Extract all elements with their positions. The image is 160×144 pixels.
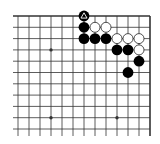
white-stone (112, 34, 122, 44)
star-point (49, 116, 52, 119)
black-stone (79, 11, 90, 22)
black-stone (101, 33, 112, 44)
black-stone (123, 45, 134, 56)
black-stone (90, 33, 101, 44)
white-stone (123, 34, 133, 44)
black-stone-disc (90, 33, 101, 44)
star-point (115, 116, 118, 119)
black-stone-disc (123, 45, 134, 56)
white-stone (90, 22, 100, 32)
black-stone (79, 22, 90, 33)
white-stone-disc (123, 34, 133, 44)
white-stone-disc (134, 34, 144, 44)
black-stone (79, 33, 90, 44)
star-point (49, 48, 52, 51)
go-board (0, 0, 160, 144)
black-stone-disc (101, 33, 112, 44)
white-stone-disc (134, 45, 144, 55)
black-stone-disc (79, 22, 90, 33)
stones (79, 11, 145, 78)
black-stone-disc (112, 45, 123, 56)
black-stone (112, 45, 123, 56)
black-stone (134, 56, 145, 67)
black-stone-disc (79, 33, 90, 44)
black-stone (123, 67, 134, 78)
black-stone-disc (134, 56, 145, 67)
white-stone-disc (90, 22, 100, 32)
black-stone-disc (123, 67, 134, 78)
white-stone-disc (101, 22, 111, 32)
white-stone-disc (112, 34, 122, 44)
white-stone (134, 34, 144, 44)
white-stone (134, 45, 144, 55)
white-stone (101, 22, 111, 32)
